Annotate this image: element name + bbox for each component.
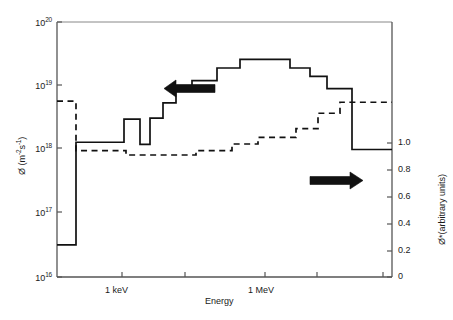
adjoint-importance-step-line <box>57 101 392 155</box>
right-tick-label-1: 0.8 <box>398 165 411 174</box>
left-tick-exponent-3: 17 <box>45 206 52 213</box>
left-axis-title: Ø (m-2s-1) <box>16 137 27 175</box>
left-tick-exponent-1: 19 <box>45 79 52 86</box>
x-tick-label-0: 1 keV <box>105 286 128 295</box>
right-tick-label-2: 0.6 <box>398 192 411 201</box>
x-tick-label-2: 1 MeV <box>248 286 274 295</box>
left-axis-title-mid: s <box>17 145 27 150</box>
left-tick-base-4: 10 <box>35 273 45 283</box>
left-tick-label-0: 1020 <box>8 17 52 28</box>
left-tick-base-1: 10 <box>35 81 45 91</box>
chart-canvas <box>0 0 453 320</box>
left-tick-label-3: 1017 <box>8 207 52 218</box>
right-axis-title: Ø*(arbitrary units) <box>438 174 447 245</box>
left-tick-label-4: 1016 <box>8 272 52 283</box>
left-tick-base-0: 10 <box>35 18 45 28</box>
left-tick-exponent-2: 18 <box>45 142 52 149</box>
left-axis-title-exp1: -2 <box>15 150 22 155</box>
left-arrow-annotation <box>164 80 215 97</box>
flux-spectrum-step-line <box>57 59 392 245</box>
left-axis-ticks <box>57 22 62 277</box>
left-tick-label-1: 1019 <box>8 80 52 91</box>
left-axis-title-end: ) <box>17 137 27 140</box>
right-tick-label-5: 0 <box>398 272 403 281</box>
left-tick-exponent-0: 20 <box>45 16 52 23</box>
left-axis-title-exp2: -1 <box>15 140 22 145</box>
right-tick-label-3: 0.4 <box>398 219 411 228</box>
right-tick-label-0: 1.0 <box>398 138 411 147</box>
right-arrow-annotation <box>310 172 363 189</box>
x-axis-title: Energy <box>205 297 234 306</box>
figure-root: 10201019101810171016 1.00.80.60.40.20 1 … <box>0 0 453 320</box>
right-tick-label-4: 0.2 <box>398 246 411 255</box>
x-axis-ticks <box>122 272 383 277</box>
left-tick-base-3: 10 <box>35 208 45 218</box>
right-axis-ticks <box>387 143 392 277</box>
axis-frame <box>57 22 392 277</box>
left-tick-base-2: 10 <box>35 144 45 154</box>
left-axis-title-text: Ø (m <box>17 155 27 175</box>
left-tick-exponent-4: 16 <box>45 271 52 278</box>
